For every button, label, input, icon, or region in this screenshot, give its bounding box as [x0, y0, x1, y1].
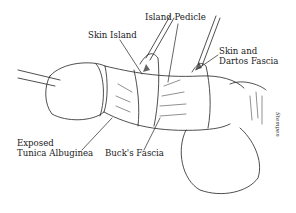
- illustration-canvas: Island Pedicle Skin Island Skin and Dart…: [0, 0, 296, 213]
- label-island-pedicle: Island Pedicle: [145, 13, 206, 23]
- label-bucks-fascia: Buck's Fascia: [105, 149, 164, 159]
- label-dartos-fascia: Dartos Fascia: [219, 57, 279, 67]
- label-tunica-albuginea: Tunica Albuginea: [17, 149, 93, 159]
- artist-signature: Stempen: [275, 112, 281, 137]
- label-skin-island: Skin Island: [88, 31, 137, 41]
- forceps-right-a: [198, 16, 216, 64]
- right-hatching: [250, 92, 262, 124]
- pedicle-hatching: [160, 80, 186, 116]
- corona-line: [96, 64, 103, 116]
- shaft-bottom-outline: [104, 112, 230, 130]
- suture-line-left-upper: [18, 70, 60, 80]
- forceps-left-b: [150, 18, 174, 60]
- glans-outline: [46, 63, 107, 120]
- leader-skin-island: [120, 40, 142, 74]
- leader-island-pedicle: [168, 24, 178, 82]
- suture-line-left-lower: [18, 78, 55, 86]
- skin-dartos-flap: [192, 64, 210, 128]
- skin-island-flap: [140, 54, 159, 126]
- shaft-top-outline: [105, 66, 244, 88]
- tunica-hatching: [116, 84, 132, 112]
- scrotum-outline: [181, 128, 259, 194]
- skin-edge-right: [230, 82, 266, 90]
- shadow-skin-island: [143, 64, 150, 72]
- anatomical-drawing: [0, 0, 296, 213]
- leader-exposed-tunica: [82, 118, 112, 150]
- skin-island-inner: [134, 70, 139, 126]
- forceps-right-b: [202, 18, 220, 66]
- leader-bucks-fascia: [144, 118, 160, 150]
